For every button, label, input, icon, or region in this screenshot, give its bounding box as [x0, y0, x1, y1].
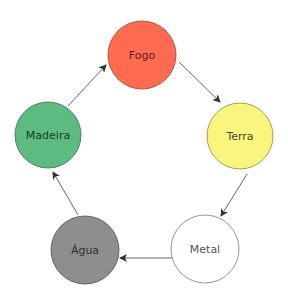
node-label-terra: Terra: [225, 130, 253, 143]
node-metal: Metal: [171, 215, 239, 283]
arrow-agua-to-madeira: [53, 172, 78, 215]
arrow-fogo-to-terra: [179, 62, 220, 102]
wuxing-cycle-diagram: FogoTerraMetalÁguaMadeira: [0, 0, 288, 301]
nodes-group: FogoTerraMetalÁguaMadeira: [15, 21, 273, 284]
node-agua: Água: [51, 216, 119, 284]
node-label-agua: Água: [71, 244, 99, 257]
arrow-madeira-to-fogo: [68, 65, 106, 106]
node-madeira: Madeira: [15, 102, 81, 168]
node-terra: Terra: [207, 103, 273, 169]
node-label-madeira: Madeira: [26, 129, 70, 142]
node-fogo: Fogo: [108, 21, 176, 89]
node-label-fogo: Fogo: [129, 49, 156, 62]
arrow-terra-to-metal: [221, 174, 247, 216]
node-label-metal: Metal: [190, 243, 220, 256]
